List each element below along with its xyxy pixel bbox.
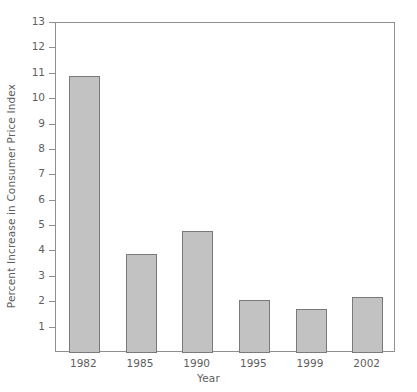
y-axis-tick: 13: [0, 22, 55, 23]
y-tick-label: 12: [32, 40, 45, 53]
x-tick-label: 1982: [55, 357, 112, 369]
y-tick-label: 1: [38, 320, 45, 333]
y-tick-label: 4: [38, 243, 45, 256]
y-tick-label: 6: [38, 193, 45, 206]
bar: [126, 254, 157, 353]
bar-chart: Percent Increase in Consumer Price Index…: [0, 0, 417, 392]
y-axis-tick: 12: [0, 47, 55, 48]
y-tick-label: 9: [38, 117, 45, 130]
x-tick-label: 1985: [112, 357, 169, 369]
bar: [69, 76, 100, 353]
y-axis-title: Percent Increase in Consumer Price Index: [0, 0, 22, 392]
x-tick-label: 1995: [225, 357, 282, 369]
y-tick-label: 11: [32, 66, 45, 79]
y-tick-label: 3: [38, 269, 45, 282]
bar: [296, 309, 327, 353]
y-tick-label: 13: [32, 15, 45, 28]
bar: [239, 300, 270, 353]
bar: [182, 231, 213, 353]
x-axis-title: Year: [0, 372, 417, 384]
y-tick-label: 7: [38, 167, 45, 180]
y-axis-tick: 6: [0, 200, 55, 201]
x-tick-label: 1990: [168, 357, 225, 369]
y-axis-tick: 2: [0, 301, 55, 302]
y-tick-label: 5: [38, 218, 45, 231]
y-axis-tick: 1: [0, 327, 55, 328]
x-tick-label: 1999: [282, 357, 339, 369]
y-tick-label: 8: [38, 142, 45, 155]
plot-area: [55, 22, 395, 352]
y-axis-tick: 10: [0, 98, 55, 99]
y-axis-tick: 7: [0, 174, 55, 175]
bar: [352, 297, 383, 353]
y-axis-tick: 11: [0, 73, 55, 74]
y-axis-tick: 8: [0, 149, 55, 150]
y-axis-tick: 5: [0, 225, 55, 226]
y-axis-tick: 3: [0, 276, 55, 277]
y-tick-label: 2: [38, 294, 45, 307]
y-axis-tick: 9: [0, 124, 55, 125]
y-axis-tick: 4: [0, 250, 55, 251]
y-tick-label: 10: [32, 91, 45, 104]
x-tick-label: 2002: [338, 357, 395, 369]
